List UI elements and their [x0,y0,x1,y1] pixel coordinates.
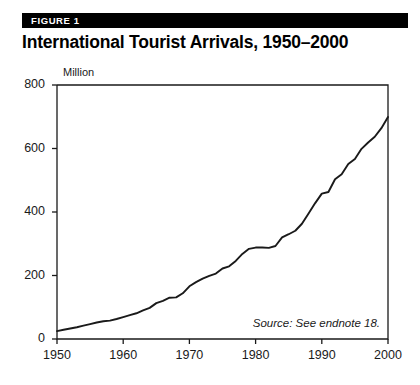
y-tick-label: 0 [3,331,45,345]
x-axis-ticks [57,339,388,344]
x-tick-label: 1970 [163,348,215,362]
plot-frame [57,85,388,339]
source-note: Source: See endnote 18. [253,317,380,329]
y-tick-label: 600 [3,141,45,155]
x-tick-label: 2000 [362,348,414,362]
y-axis-ticks [52,85,57,339]
figure-root: FIGURE 1 International Tourist Arrivals,… [0,0,420,385]
x-tick-label: 1950 [31,348,83,362]
x-tick-label: 1980 [230,348,282,362]
x-tick-label: 1990 [296,348,348,362]
y-axis-unit-label: Million [63,66,94,78]
x-tick-label: 1960 [97,348,149,362]
chart-plot-area: Million 0200400600800 195019601970198019… [0,0,420,385]
y-tick-label: 400 [3,204,45,218]
y-tick-label: 800 [3,77,45,91]
y-tick-label: 200 [3,268,45,282]
series-line-international-tourist-arrivals [57,117,388,331]
